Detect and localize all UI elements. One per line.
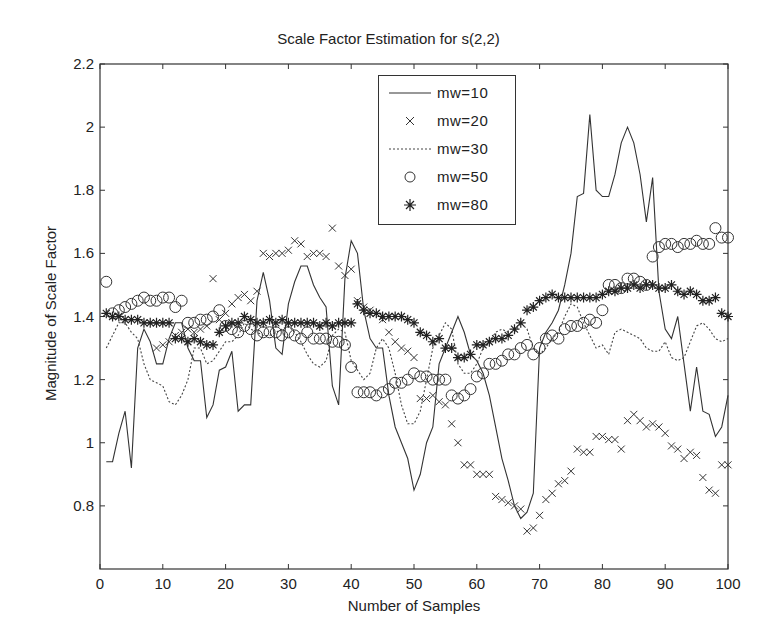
x-tick-label: 0 bbox=[96, 575, 104, 592]
y-tick-label: 0.8 bbox=[73, 497, 94, 514]
star-marker-icon bbox=[387, 192, 433, 218]
dotted-line-icon bbox=[387, 136, 433, 162]
y-tick-label: 1.8 bbox=[73, 181, 94, 198]
x-marker-icon bbox=[387, 108, 433, 134]
y-tick-label: 1.6 bbox=[73, 244, 94, 261]
x-axis-label: Number of Samples bbox=[100, 597, 728, 614]
legend-item-mw10: mw=10 bbox=[379, 80, 515, 106]
x-tick-label: 90 bbox=[657, 575, 674, 592]
y-tick-label: 1.4 bbox=[73, 308, 94, 325]
x-tick-label: 10 bbox=[154, 575, 171, 592]
x-tick-label: 30 bbox=[280, 575, 297, 592]
x-tick-label: 40 bbox=[343, 575, 360, 592]
legend-item-mw50: mw=50 bbox=[379, 164, 515, 190]
x-tick-label: 100 bbox=[715, 575, 740, 592]
series-mw-20 bbox=[153, 225, 731, 535]
x-tick-label: 60 bbox=[468, 575, 485, 592]
legend-item-mw30: mw=30 bbox=[379, 136, 515, 162]
y-tick-label: 2.2 bbox=[73, 55, 94, 72]
x-tick-label: 80 bbox=[594, 575, 611, 592]
x-tick-label: 70 bbox=[531, 575, 548, 592]
series-mw-50 bbox=[101, 223, 734, 404]
x-tick-label: 50 bbox=[406, 575, 423, 592]
y-tick-label: 1 bbox=[86, 434, 94, 451]
solid-line-icon bbox=[387, 80, 433, 106]
legend-item-mw20: mw=20 bbox=[379, 108, 515, 134]
legend-item-mw80: mw=80 bbox=[379, 192, 515, 218]
x-tick-label: 20 bbox=[217, 575, 234, 592]
series-mw-80 bbox=[101, 280, 733, 363]
legend: mw=10 mw=20 mw=30 mw=50 mw=80 bbox=[378, 75, 516, 225]
y-tick-label: 1.2 bbox=[73, 371, 94, 388]
y-axis-label: Magnitude of Scale Factor bbox=[42, 184, 59, 444]
circle-marker-icon bbox=[387, 164, 433, 190]
y-tick-label: 2 bbox=[86, 118, 94, 135]
